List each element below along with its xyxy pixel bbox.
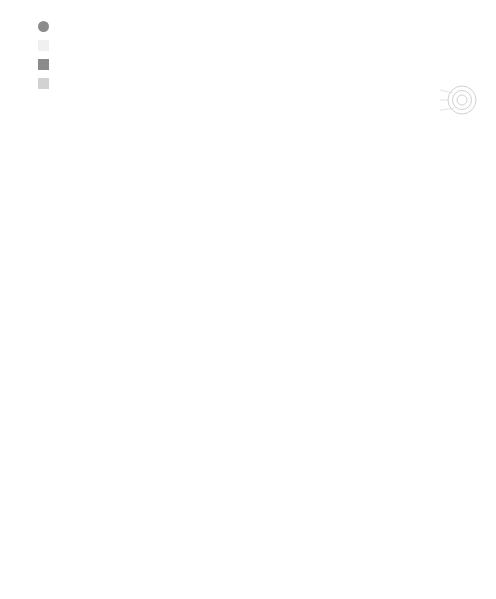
- charts-canvas: [0, 0, 496, 599]
- chart-page: [0, 0, 496, 599]
